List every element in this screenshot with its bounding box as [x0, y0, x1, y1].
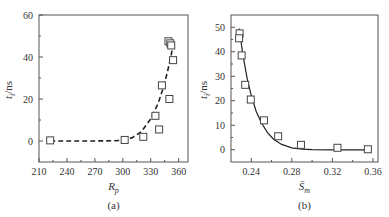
data-point-marker — [121, 136, 128, 143]
x-tick-label: 0.36 — [364, 166, 382, 177]
x-tick-label: 330 — [143, 166, 158, 177]
x-tick-label: 270 — [87, 166, 102, 177]
data-point-marker — [260, 117, 267, 124]
y-tick-label: 0 — [220, 144, 225, 155]
x-axis-label: Rp — [107, 180, 119, 195]
panel-label: (a) — [107, 199, 120, 212]
data-point-marker — [140, 133, 147, 140]
y-axis-label: ti/ns — [2, 81, 17, 99]
x-tick-label: 0.32 — [324, 166, 342, 177]
y-tick-label: 50 — [215, 22, 225, 33]
data-point-marker — [170, 57, 177, 64]
data-point-marker — [47, 137, 54, 144]
x-tick-label: 360 — [171, 166, 186, 177]
x-axis-label: S̄m — [299, 180, 311, 195]
figure: 2102402703003303600204060Rpti/ns(a) 0.24… — [0, 0, 389, 217]
data-point-marker — [247, 96, 254, 103]
chart-panel-a: 2102402703003303600204060Rpti/ns(a) — [2, 10, 188, 213]
x-tick-label: 240 — [59, 166, 74, 177]
data-point-marker — [156, 126, 163, 133]
data-point-marker — [152, 112, 159, 119]
y-tick-label: 60 — [23, 10, 33, 21]
data-point-marker — [166, 96, 173, 103]
y-tick-label: 10 — [215, 120, 225, 131]
y-tick-label: 20 — [23, 94, 33, 105]
y-tick-label: 0 — [28, 136, 33, 147]
x-tick-label: 210 — [32, 166, 47, 177]
data-point-marker — [238, 52, 245, 59]
y-tick-label: 40 — [23, 52, 33, 63]
data-point-marker — [297, 141, 304, 148]
data-point-marker — [364, 146, 371, 153]
plot-frame — [231, 15, 378, 162]
panel-label: (b) — [298, 199, 311, 212]
y-tick-label: 30 — [215, 71, 225, 82]
chart-panel-b: 0.240.280.320.3601020304050S̄mti/ns(b) — [197, 15, 382, 212]
data-point-marker — [275, 133, 282, 140]
y-axis-label: ti/ns — [197, 81, 212, 99]
x-tick-label: 0.24 — [243, 166, 261, 177]
x-tick-label: 0.28 — [283, 166, 301, 177]
data-point-marker — [158, 82, 165, 89]
y-tick-label: 20 — [215, 95, 225, 106]
data-point-marker — [236, 35, 243, 42]
data-point-marker — [334, 144, 341, 151]
y-tick-label: 40 — [215, 46, 225, 57]
x-tick-label: 300 — [115, 166, 130, 177]
data-point-marker — [242, 81, 249, 88]
fit-curve — [239, 29, 369, 150]
data-point-marker — [168, 42, 175, 49]
fit-curve — [50, 44, 173, 141]
